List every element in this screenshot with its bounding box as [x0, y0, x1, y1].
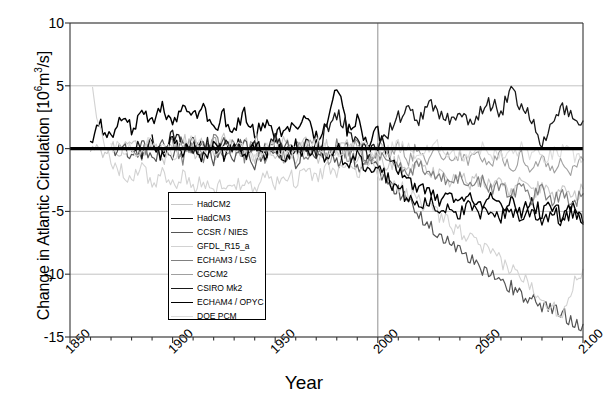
legend-line-swatch [171, 316, 193, 317]
legend-line-swatch [171, 204, 193, 205]
legend-item: ECHAM3 / LSG [171, 253, 265, 267]
chart-figure: Change in Atlantic Circulation [106m3/s]… [0, 0, 608, 408]
legend-label: CSIRO Mk2 [197, 284, 242, 293]
legend-item: HadCM2 [171, 197, 265, 211]
plot-area [0, 0, 608, 408]
chart-legend: HadCM2HadCM3CCSR / NIESGFDL_R15_aECHAM3 … [168, 192, 266, 320]
legend-line-swatch [171, 246, 193, 247]
legend-line-swatch [171, 302, 193, 303]
legend-label: CGCM2 [197, 270, 228, 279]
legend-item: GFDL_R15_a [171, 239, 265, 253]
legend-item: CSIRO Mk2 [171, 281, 265, 295]
legend-label: CCSR / NIES [197, 228, 248, 237]
legend-line-swatch [171, 260, 193, 261]
legend-item: CCSR / NIES [171, 225, 265, 239]
legend-label: ECHAM3 / LSG [197, 256, 257, 265]
legend-label: ECHAM4 / OPYC [197, 298, 264, 307]
legend-label: DOE PCM [197, 312, 237, 321]
legend-line-swatch [171, 288, 193, 289]
legend-item: DOE PCM [171, 309, 265, 323]
legend-label: HadCM2 [197, 200, 231, 209]
legend-line-swatch [171, 218, 193, 219]
legend-line-swatch [171, 232, 193, 233]
legend-label: HadCM3 [197, 214, 231, 223]
legend-line-swatch [171, 274, 193, 275]
legend-item: HadCM3 [171, 211, 265, 225]
legend-item: ECHAM4 / OPYC [171, 295, 265, 309]
legend-item: CGCM2 [171, 267, 265, 281]
legend-label: GFDL_R15_a [197, 242, 249, 251]
